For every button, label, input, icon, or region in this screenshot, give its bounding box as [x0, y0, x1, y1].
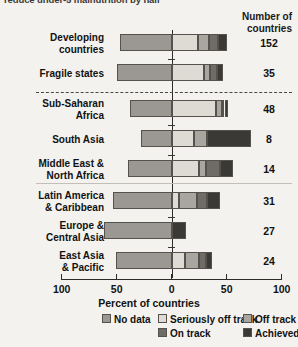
bar-segment-achieved — [207, 192, 220, 209]
bar-segment-achieved — [220, 160, 233, 177]
zero-line-tick — [168, 155, 175, 156]
legend-label: On track — [170, 328, 211, 339]
legend-item-off-track: Off track — [243, 314, 296, 325]
chart-row: Europe &Central Asia27 — [0, 222, 298, 252]
bar-segment-seriously-off-track — [172, 130, 194, 147]
bar-segment-achieved — [218, 34, 227, 51]
legend-label: No data — [114, 314, 151, 325]
x-axis-tick — [116, 274, 117, 280]
bar-segment-on-track — [197, 192, 207, 209]
bar-segment-off-track — [179, 192, 197, 209]
legend-row-2: On trackAchieved — [0, 328, 298, 341]
bar-segment-seriously-off-track — [172, 160, 200, 177]
chart-row: Latin America& Caribbean31 — [0, 192, 298, 222]
bar-segment-on-track — [209, 34, 218, 51]
legend-swatch-icon — [158, 314, 167, 323]
group-separator-dashed — [36, 92, 292, 93]
x-axis-tick — [226, 274, 227, 280]
x-axis-tick — [171, 274, 172, 280]
zero-line-tick — [168, 59, 175, 60]
bar-segment-seriously-off-track — [172, 192, 180, 209]
zero-line-tick — [168, 217, 175, 218]
x-axis-tick — [61, 274, 62, 280]
bar-segment-off-track — [198, 34, 209, 51]
row-country-count: 27 — [246, 225, 292, 237]
bar-segment-achieved — [207, 130, 251, 147]
x-axis-tick-label: 100 — [262, 283, 298, 295]
legend-item-no-data: No data — [102, 314, 151, 325]
bar-segment-seriously-off-track — [172, 34, 198, 51]
x-axis-tick-label: 0 — [152, 283, 192, 295]
legend-label: Off track — [255, 314, 296, 325]
chart-row: Middle East &North Africa14 — [0, 160, 298, 190]
legend-swatch-icon — [158, 328, 167, 337]
legend-label: Achieved — [255, 328, 298, 339]
bar-segment-off-track — [199, 160, 206, 177]
row-country-count: 48 — [246, 103, 292, 115]
bar-segment-off-track — [185, 252, 199, 269]
legend-item-on-track: On track — [158, 328, 211, 339]
bar-segment-off-track — [216, 100, 223, 117]
chart-row: Developingcountries152 — [0, 34, 298, 64]
legend-row-1: No dataSeriously off trackOff track — [0, 314, 298, 327]
chart-row: East Asia& Pacific24 — [0, 252, 298, 282]
bar-segment-seriously-off-track — [172, 252, 185, 269]
bar-segment-no-data — [104, 222, 172, 239]
row-country-count: 31 — [246, 195, 292, 207]
bar-segment-no-data — [116, 252, 172, 269]
bar-segment-no-data — [128, 160, 172, 177]
legend-swatch-icon — [102, 314, 111, 323]
zero-line-tick — [168, 247, 175, 248]
bar-segment-on-track — [206, 160, 220, 177]
bar-segment-achieved — [217, 64, 224, 81]
bar-segment-on-track — [210, 64, 217, 81]
chart-row: Fragile states35 — [0, 64, 298, 94]
malnutrition-progress-chart: reduce under-5 malnutrition by half Numb… — [0, 0, 298, 347]
bar-segment-no-data — [141, 130, 172, 147]
row-country-count: 8 — [246, 133, 292, 145]
bar-segment-off-track — [194, 130, 207, 147]
x-axis-title: Percent of countries — [0, 297, 298, 309]
bar-segment-seriously-off-track — [172, 100, 216, 117]
group-separator-line — [36, 183, 292, 184]
zero-line-tick — [168, 125, 175, 126]
bar-segment-on-track — [199, 252, 206, 269]
chart-row: Sub-SaharanAfrica48 — [0, 100, 298, 130]
row-country-count: 152 — [246, 37, 292, 49]
legend-item-achieved: Achieved — [243, 328, 298, 339]
bar-segment-no-data — [120, 34, 172, 51]
chart-row: South Asia8 — [0, 130, 298, 160]
legend-swatch-icon — [243, 328, 252, 337]
x-axis-tick-label: 50 — [207, 283, 247, 295]
bar-segment-no-data — [130, 100, 172, 117]
bar-segment-achieved — [206, 252, 213, 269]
bar-segment-no-data — [113, 192, 171, 209]
bar-segment-achieved — [172, 222, 186, 239]
x-axis-tick-label: 50 — [97, 283, 137, 295]
row-country-count: 24 — [246, 255, 292, 267]
bar-segment-seriously-off-track — [172, 64, 204, 81]
bar-segment-achieved — [225, 100, 228, 117]
legend-swatch-icon — [243, 314, 252, 323]
x-axis-tick — [281, 274, 282, 280]
bar-segment-off-track — [204, 64, 211, 81]
row-country-count: 35 — [246, 67, 292, 79]
bar-segment-no-data — [117, 64, 172, 81]
x-axis-tick-label: 100 — [42, 283, 82, 295]
row-country-count: 14 — [246, 163, 292, 175]
